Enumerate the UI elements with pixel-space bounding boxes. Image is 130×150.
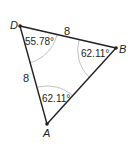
vertex-point-d	[18, 24, 22, 28]
side-ba	[47, 48, 116, 124]
angle-label-a: 62.11°	[42, 93, 70, 104]
vertex-point-a	[45, 122, 49, 126]
vertex-label-d: D	[10, 19, 18, 31]
vertex-label-a: A	[42, 127, 50, 139]
angle-label-b: 62.11°	[81, 48, 109, 59]
vertex-point-b	[114, 46, 118, 50]
side-length-da: 8	[23, 72, 29, 84]
side-length-db: 8	[64, 25, 70, 37]
vertex-label-b: B	[119, 43, 126, 55]
triangle-diagram: D B A 8 8 55.78° 62.11° 62.11°	[0, 0, 130, 150]
angle-label-d: 55.78°	[25, 36, 54, 47]
triangle-svg: D B A 8 8 55.78° 62.11° 62.11°	[0, 0, 130, 150]
